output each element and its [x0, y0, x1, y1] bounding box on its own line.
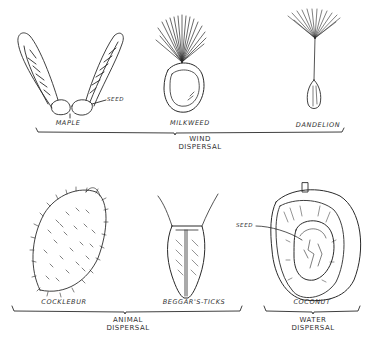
animal-dispersal-label: ANIMAL DISPERSAL — [106, 316, 149, 332]
wind-dispersal-line2: DISPERSAL — [178, 143, 221, 151]
maple-samara-drawing — [18, 33, 123, 118]
cocklebur-drawing — [30, 187, 108, 297]
seed-dispersal-illustration — [0, 0, 378, 340]
maple-seed-callout-label: SEED — [107, 96, 124, 102]
beggars-ticks-label: BEGGAR'S-TICKS — [163, 298, 226, 306]
water-dispersal-line2: DISPERSAL — [291, 324, 334, 332]
wind-dispersal-label: WIND DISPERSAL — [178, 135, 221, 151]
dandelion-label: DANDELION — [296, 121, 340, 129]
milkweed-seed-drawing — [156, 15, 206, 112]
water-dispersal-line1: WATER — [291, 316, 334, 324]
animal-dispersal-line1: ANIMAL — [106, 316, 149, 324]
beggars-ticks-drawing — [158, 194, 218, 298]
dandelion-seed-drawing — [288, 9, 340, 109]
wind-group-bracket — [36, 128, 344, 135]
cocklebur-label: COCKLEBUR — [41, 298, 86, 306]
animal-dispersal-line2: DISPERSAL — [106, 324, 149, 332]
coconut-label: COCONUT — [293, 298, 330, 306]
animal-group-bracket — [12, 306, 242, 314]
coconut-drawing — [256, 183, 361, 301]
wind-dispersal-line1: WIND — [178, 135, 221, 143]
water-group-bracket — [264, 306, 360, 314]
water-dispersal-label: WATER DISPERSAL — [291, 316, 334, 332]
milkweed-label: MILKWEED — [170, 119, 210, 127]
maple-label: MAPLE — [56, 119, 81, 127]
coconut-seed-callout-label: SEED — [236, 222, 253, 228]
